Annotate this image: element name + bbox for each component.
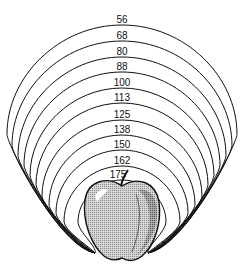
arc-label: 56 [116, 14, 128, 25]
arc-label: 125 [114, 109, 131, 120]
arc-label: 80 [116, 46, 128, 57]
arc-label: 100 [114, 77, 131, 88]
arc-label: 68 [116, 30, 128, 41]
apple-illustration [84, 170, 159, 260]
arc-label: 138 [114, 124, 131, 135]
arc-label: 162 [114, 155, 131, 166]
arc-label: 88 [116, 61, 128, 72]
arc-diagram: 56688088100113125138150162175 [0, 0, 244, 271]
arc-label: 113 [114, 92, 130, 103]
arc-label: 150 [114, 139, 131, 150]
arc-labels: 56688088100113125138150162175 [110, 14, 131, 180]
